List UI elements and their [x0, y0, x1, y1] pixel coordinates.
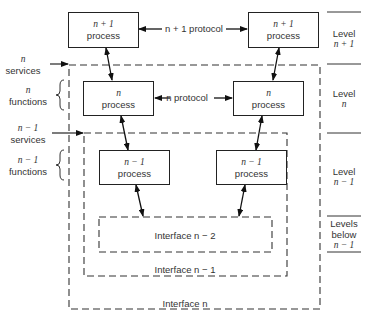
n-minus-1-services-label: n − 1 services: [4, 123, 52, 145]
n-minus-1-functions-label: n − 1 functions: [4, 155, 52, 177]
n-minus-1-process-left: n − 1 process: [99, 150, 170, 185]
interface-n-minus-1-label: Interface n − 1: [130, 264, 240, 275]
level-n-minus-1-label: Level n − 1: [327, 166, 361, 188]
label-line: n: [4, 85, 52, 96]
label-line: n − 1: [327, 240, 361, 251]
label-line: n: [327, 99, 361, 110]
n-plus-1-protocol-label: n + 1 protocol: [160, 23, 228, 34]
label-line: functions: [4, 166, 52, 177]
label-line: functions: [4, 96, 52, 107]
n-functions-label: n functions: [4, 85, 52, 107]
n-process-right: n process: [233, 81, 304, 116]
label-line: n − 1: [327, 177, 361, 188]
process-level-label: n: [266, 88, 271, 99]
level-n-label: Level n: [327, 88, 361, 110]
process-level-label: n: [116, 88, 121, 99]
label-line: n + 1: [327, 39, 361, 50]
process-level-label: n − 1: [124, 157, 145, 168]
label-line: services: [0, 65, 46, 76]
diagram-lines: [0, 0, 373, 330]
n-protocol-label: n protocol: [157, 92, 217, 103]
process-label: process: [118, 168, 151, 179]
process-level-label: n + 1: [273, 19, 294, 30]
label-line: Level: [327, 28, 361, 39]
process-label: process: [87, 30, 120, 41]
process-label: process: [102, 99, 135, 110]
label-line: Level: [327, 88, 361, 99]
n-minus-1-process-right: n − 1 process: [216, 150, 287, 185]
label-line: below: [327, 229, 361, 240]
n-process-left: n process: [83, 81, 154, 116]
level-n-plus-1-label: Level n + 1: [327, 28, 361, 50]
label-line: Levels: [327, 218, 361, 229]
n-services-label: n services: [0, 54, 46, 76]
process-label: process: [252, 99, 285, 110]
process-level-label: n + 1: [93, 19, 114, 30]
process-level-label: n − 1: [241, 157, 262, 168]
interface-n-label: Interface n: [130, 298, 240, 309]
n-plus-1-process-right: n + 1 process: [248, 12, 319, 48]
label-line: n − 1: [4, 155, 52, 166]
label-line: Level: [327, 166, 361, 177]
interface-n-minus-2-label: Interface n − 2: [130, 230, 240, 241]
process-label: process: [267, 30, 300, 41]
levels-below-label: Levels below n − 1: [327, 218, 361, 251]
label-line: n − 1: [4, 123, 52, 134]
process-label: process: [235, 168, 268, 179]
label-line: n: [0, 54, 46, 65]
n-plus-1-process-left: n + 1 process: [68, 12, 139, 48]
label-line: services: [4, 134, 52, 145]
